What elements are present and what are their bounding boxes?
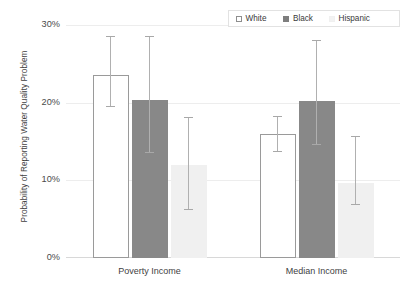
bar-slot (299, 25, 335, 258)
error-cap-upper (145, 36, 154, 37)
error-bar (110, 37, 111, 107)
error-cap-lower (106, 106, 115, 107)
bar-group (233, 25, 400, 258)
error-cap-upper (273, 116, 282, 117)
x-tick-label: Median Income (233, 266, 400, 276)
legend-label: Hispanic (338, 14, 369, 23)
bar-slot (132, 25, 168, 258)
chart-legend: WhiteBlackHispanic (228, 10, 400, 27)
legend-swatch-icon (283, 16, 289, 22)
legend-label: Black (293, 14, 313, 23)
bar-slot (93, 25, 129, 258)
error-cap-lower (273, 151, 282, 152)
y-tick-label: 20% (14, 97, 60, 107)
legend-item-white[interactable]: White (236, 14, 266, 23)
error-cap-lower (351, 204, 360, 205)
legend-swatch-icon (329, 16, 335, 22)
x-tick-label: Poverty Income (66, 266, 233, 276)
plot-area (66, 25, 400, 258)
bar-slot (338, 25, 374, 258)
error-bar (316, 41, 317, 145)
legend-swatch-icon (236, 16, 242, 22)
error-cap-upper (312, 40, 321, 41)
error-bar (149, 37, 150, 154)
error-bar (277, 117, 278, 152)
error-bar (188, 118, 189, 210)
legend-item-black[interactable]: Black (283, 14, 313, 23)
bar-slot (171, 25, 207, 258)
y-axis-tick-labels: 30%20%10%0% (14, 0, 60, 291)
error-cap-upper (106, 36, 115, 37)
error-cap-lower (145, 152, 154, 153)
bar-chart: Probability of Reporting Water Quality P… (0, 0, 409, 291)
error-bar (355, 137, 356, 205)
bar-group (66, 25, 233, 258)
error-cap-lower (184, 209, 193, 210)
bar-slot (260, 25, 296, 258)
legend-item-hispanic[interactable]: Hispanic (329, 14, 370, 23)
y-tick-label: 0% (14, 252, 60, 262)
legend-label: White (246, 14, 267, 23)
error-cap-lower (312, 144, 321, 145)
y-tick-label: 10% (14, 174, 60, 184)
error-cap-upper (351, 136, 360, 137)
error-cap-upper (184, 117, 193, 118)
y-tick-label: 30% (14, 19, 60, 29)
bar-white-median-income[interactable] (260, 134, 296, 258)
